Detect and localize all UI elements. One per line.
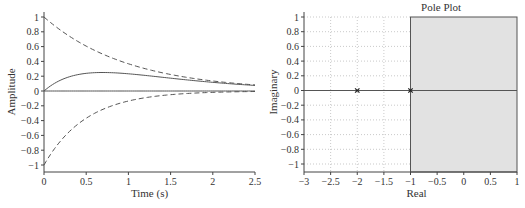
y-tick-label: 0.2 <box>287 70 300 81</box>
chart-figure: 10.80.60.40.20−0.2−0.4−0.6−0.8−100.511.5… <box>0 0 525 208</box>
y-tick-label: 0.8 <box>287 26 300 37</box>
x-tick-label: 1 <box>126 176 131 187</box>
y-axis-label: Imaginary <box>267 69 279 115</box>
amplitude-chart: 10.80.60.40.20−0.2−0.4−0.6−0.8−100.511.5… <box>5 12 261 201</box>
x-tick-label: 1.5 <box>164 176 177 187</box>
y-tick-label: 0.4 <box>27 56 40 67</box>
y-tick-label: −0.8 <box>281 144 299 155</box>
y-tick-label: −0.6 <box>281 129 299 140</box>
y-tick-label: −0.4 <box>21 115 39 126</box>
y-tick-label: 1 <box>294 12 299 23</box>
y-tick-label: 0 <box>294 85 299 96</box>
y-tick-label: 0.4 <box>287 56 300 67</box>
x-tick-label: −1.5 <box>375 176 393 187</box>
x-tick-label: 0 <box>461 176 466 187</box>
y-tick-label: 0 <box>34 86 39 97</box>
x-tick-label: −2.5 <box>322 176 340 187</box>
x-tick-label: 2 <box>210 176 215 187</box>
x-tick-label: 2.5 <box>249 176 262 187</box>
y-tick-label: −0.4 <box>281 114 299 125</box>
x-tick-label: −1 <box>405 176 416 187</box>
x-tick-label: −0.5 <box>428 176 446 187</box>
x-axis-label: Real <box>406 187 426 199</box>
y-tick-label: 0.6 <box>27 41 40 52</box>
x-axis-label: Time (s) <box>131 187 169 200</box>
x-tick-label: 1 <box>515 176 520 187</box>
x-tick-label: 0.5 <box>484 176 497 187</box>
chart-title: Pole Plot <box>421 1 461 13</box>
x-tick-label: −2 <box>352 176 363 187</box>
y-tick-label: 0.6 <box>287 41 300 52</box>
shaded-region <box>411 17 518 172</box>
y-tick-label: −0.8 <box>21 145 39 156</box>
y-tick-label: 0.2 <box>27 71 40 82</box>
y-tick-label: 1 <box>34 12 39 23</box>
y-tick-label: 0.8 <box>27 26 40 37</box>
series-line <box>44 92 255 166</box>
pole-plot-chart: 10.80.60.40.20−0.2−0.4−0.6−0.8−1−3−2.5−2… <box>267 1 520 199</box>
y-axis-label: Amplitude <box>5 68 17 115</box>
y-tick-label: −1 <box>28 160 39 171</box>
x-tick-label: 0.5 <box>80 176 93 187</box>
y-tick-label: −0.2 <box>281 100 299 111</box>
y-tick-label: −0.2 <box>21 100 39 111</box>
y-tick-label: −1 <box>288 159 299 170</box>
x-tick-label: 0 <box>42 176 47 187</box>
y-tick-label: −0.6 <box>21 130 39 141</box>
x-tick-label: −3 <box>299 176 310 187</box>
